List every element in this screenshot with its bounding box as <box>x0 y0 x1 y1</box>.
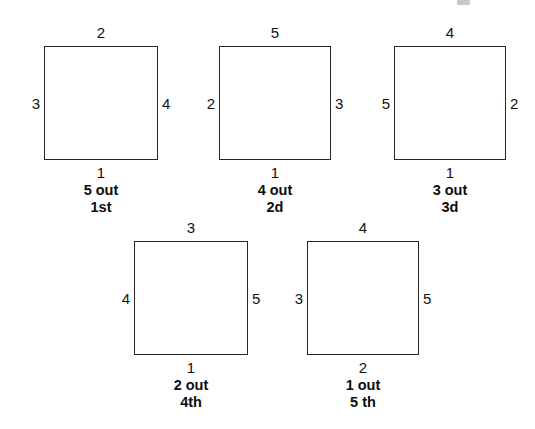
square-1-bottom-label: 1 <box>44 165 158 180</box>
square-2-caption-line-2: 2d <box>219 199 331 216</box>
square-4-top-label: 3 <box>134 220 248 235</box>
square-outline <box>307 241 419 355</box>
square-outline <box>394 46 506 160</box>
cut-off-text-fragment <box>457 0 470 5</box>
square-1-caption: 5 out 1st <box>44 182 158 216</box>
square-outline <box>134 241 248 355</box>
square-5-caption-line-1: 1 out <box>307 377 419 394</box>
square-3-caption: 3 out 3d <box>394 182 506 216</box>
square-5-caption-line-2: 5 th <box>307 394 419 411</box>
square-2-left-label: 2 <box>207 96 215 111</box>
square-3-caption-line-2: 3d <box>394 199 506 216</box>
square-4-bottom-label: 1 <box>134 360 248 375</box>
square-4-right-label: 5 <box>252 291 260 306</box>
square-2-right-label: 3 <box>335 96 343 111</box>
diagram-square-5: 4 3 5 2 1 out 5 th <box>307 241 419 355</box>
square-1-caption-line-2: 1st <box>44 199 158 216</box>
square-3-right-label: 2 <box>510 96 518 111</box>
square-2-top-label: 5 <box>219 25 331 40</box>
diagram-square-2: 5 2 3 1 4 out 2d <box>219 46 331 160</box>
square-3-caption-line-1: 3 out <box>394 182 506 199</box>
square-2-bottom-label: 1 <box>219 165 331 180</box>
square-3-left-label: 5 <box>382 96 390 111</box>
square-5-bottom-label: 2 <box>307 360 419 375</box>
square-4-left-label: 4 <box>122 291 130 306</box>
square-3-bottom-label: 1 <box>394 165 506 180</box>
square-1-caption-line-1: 5 out <box>44 182 158 199</box>
diagram-square-1: 2 3 4 1 5 out 1st <box>44 46 158 160</box>
square-outline <box>219 46 331 160</box>
square-1-top-label: 2 <box>44 25 158 40</box>
square-2-caption: 4 out 2d <box>219 182 331 216</box>
square-1-right-label: 4 <box>162 96 170 111</box>
square-2-caption-line-1: 4 out <box>219 182 331 199</box>
diagram-canvas: 2 3 4 1 5 out 1st 5 2 3 1 4 out 2d 4 5 2… <box>0 0 535 429</box>
square-4-caption-line-2: 4th <box>134 394 248 411</box>
square-5-left-label: 3 <box>295 291 303 306</box>
square-outline <box>44 46 158 160</box>
square-3-top-label: 4 <box>394 25 506 40</box>
square-4-caption: 2 out 4th <box>134 377 248 411</box>
square-5-top-label: 4 <box>307 220 419 235</box>
square-4-caption-line-1: 2 out <box>134 377 248 394</box>
square-5-caption: 1 out 5 th <box>307 377 419 411</box>
square-5-right-label: 5 <box>423 291 431 306</box>
square-1-left-label: 3 <box>32 96 40 111</box>
diagram-square-3: 4 5 2 1 3 out 3d <box>394 46 506 160</box>
diagram-square-4: 3 4 5 1 2 out 4th <box>134 241 248 355</box>
